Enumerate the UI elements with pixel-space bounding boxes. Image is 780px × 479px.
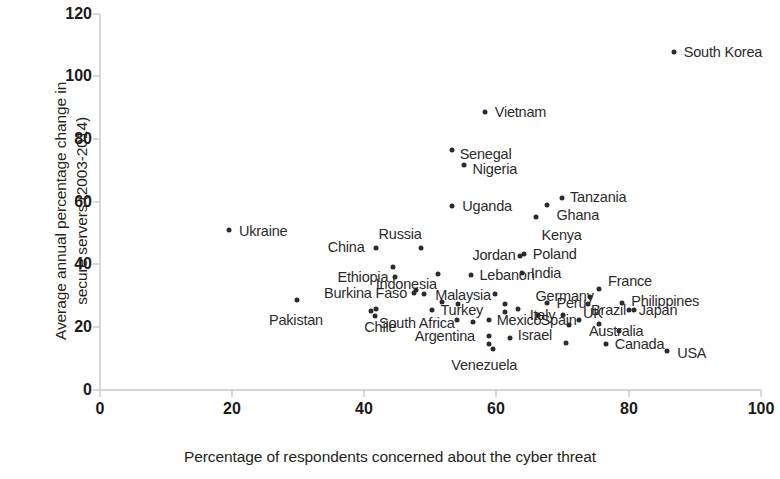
data-point (294, 297, 299, 302)
data-point (597, 287, 602, 292)
data-point (521, 251, 526, 256)
x-axis-title: Percentage of respondents concerned abou… (0, 448, 780, 466)
point-label: Nigeria (473, 161, 518, 177)
point-label: Russia (379, 226, 422, 242)
data-point (372, 313, 377, 318)
point-label: Kenya (542, 227, 582, 243)
data-point (421, 292, 426, 297)
point-label: India (531, 265, 561, 281)
point-label: Japan (639, 302, 678, 318)
data-point (454, 317, 459, 322)
point-label: Jordan (472, 247, 515, 263)
point-label: Israel (518, 327, 552, 343)
y-axis-title-line1: Average annual percentage change in (52, 82, 69, 340)
data-point (515, 306, 520, 311)
x-tick-40: 40 (334, 400, 394, 418)
data-point (482, 110, 487, 115)
point-label: Argentina (415, 328, 475, 344)
data-point (430, 308, 435, 313)
data-point (470, 320, 475, 325)
x-tick-80: 80 (599, 400, 659, 418)
point-label: South Korea (684, 44, 762, 60)
data-point (461, 163, 466, 168)
data-point (671, 50, 676, 55)
data-point (502, 301, 507, 306)
point-label: Ethiopia (337, 269, 388, 285)
data-point (545, 300, 550, 305)
data-point (487, 342, 492, 347)
scatter-chart: 120 100 80 60 40 20 0 0 20 40 60 80 100 … (0, 0, 780, 479)
point-label: Canada (615, 336, 665, 352)
y-axis-title: Average annual percentage change in secu… (51, 21, 93, 401)
point-label: Malaysia (435, 287, 491, 303)
point-label: Burkina Faso (324, 285, 407, 301)
data-point (632, 308, 637, 313)
data-point (486, 318, 491, 323)
data-point (626, 307, 631, 312)
data-point (493, 292, 498, 297)
data-point (507, 335, 512, 340)
data-point (533, 215, 538, 220)
point-label: Ukraine (239, 223, 288, 239)
x-tick-60: 60 (466, 400, 526, 418)
data-point (450, 204, 455, 209)
y-axis-title-line2: secure servers (2003-2014) (73, 117, 90, 305)
point-label: Uganda (462, 198, 512, 214)
point-label: UK (583, 305, 603, 321)
point-label: Chile (364, 319, 396, 335)
point-label: Senegal (460, 146, 512, 162)
data-point (603, 341, 608, 346)
data-point (390, 265, 395, 270)
data-point (226, 227, 231, 232)
point-label: Peru (556, 295, 586, 311)
data-point (665, 348, 670, 353)
data-point (411, 290, 416, 295)
point-label: USA (677, 345, 706, 361)
point-label: Pakistan (269, 312, 323, 328)
data-point (449, 148, 454, 153)
data-point (374, 307, 379, 312)
data-point (560, 195, 565, 200)
data-point (393, 274, 398, 279)
point-label: Tanzania (570, 189, 626, 205)
point-label: Ghana (556, 207, 599, 223)
data-point (418, 245, 423, 250)
point-label: Venezuela (451, 357, 517, 373)
x-tick-20: 20 (202, 400, 262, 418)
point-label: China (328, 239, 365, 255)
point-label: Poland (533, 246, 577, 262)
point-label: France (608, 273, 652, 289)
point-label: Lebanon (479, 267, 534, 283)
data-point (373, 245, 378, 250)
x-tick-0: 0 (70, 400, 130, 418)
data-point (491, 347, 496, 352)
data-point (564, 341, 569, 346)
point-label: Vietnam (495, 104, 547, 120)
data-point (486, 334, 491, 339)
data-point (469, 272, 474, 277)
data-point (545, 202, 550, 207)
x-tick-100: 100 (731, 400, 780, 418)
data-point (576, 318, 581, 323)
